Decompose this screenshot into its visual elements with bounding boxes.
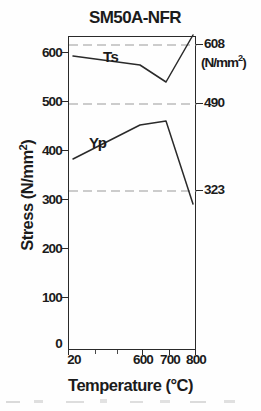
y-tick-label-600: 600 (16, 45, 62, 60)
series-label-ts: Ts (103, 48, 118, 65)
reference-tick-323 (196, 190, 203, 191)
x-tick-minor-2 (117, 350, 118, 354)
x-tick-label-800: 800 (186, 352, 206, 367)
x-tick-minor-1 (95, 350, 96, 354)
plot-area: Ts Yp (68, 36, 196, 350)
chart-figure: SM50A-NFR 600 500 400 300 200 100 0 Ts Y… (0, 0, 261, 411)
y-tick-label-0: 0 (16, 336, 62, 351)
x-axis-title: Temperature (°C) (0, 376, 261, 395)
reference-tick-608 (196, 44, 203, 45)
y-axis-title: Stress (N/mm2) (17, 80, 38, 310)
x-tick-label-600: 600 (133, 352, 153, 367)
reference-label-490: 490 (204, 95, 224, 110)
x-tick-label-700: 700 (160, 352, 180, 367)
series-label-yp: Yp (89, 134, 106, 151)
reference-label-608: 608 (204, 36, 224, 51)
series-line-ts (73, 35, 193, 82)
reference-unit-label: (N/mm2) (201, 53, 246, 70)
scan-artifact (0, 395, 261, 409)
reference-tick-490 (196, 103, 203, 104)
x-tick-label-20: 20 (67, 352, 80, 367)
plot-canvas (65, 23, 205, 353)
reference-label-323: 323 (204, 182, 224, 197)
